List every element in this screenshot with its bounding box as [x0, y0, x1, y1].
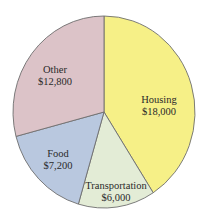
label-transportation: Transportation $6,000 — [85, 180, 146, 204]
pie-chart: Housing $18,000 Transportation $6,000 Fo… — [0, 0, 203, 222]
label-transportation-name: Transportation — [85, 180, 146, 192]
label-housing: Housing $18,000 — [141, 94, 177, 118]
label-other-name: Other — [38, 64, 72, 76]
label-food-value: $7,200 — [44, 160, 73, 172]
label-housing-name: Housing — [141, 94, 177, 106]
label-other-value: $12,800 — [38, 76, 72, 88]
label-transportation-value: $6,000 — [85, 192, 146, 204]
label-other: Other $12,800 — [38, 64, 72, 88]
label-food: Food $7,200 — [44, 148, 73, 172]
label-food-name: Food — [44, 148, 73, 160]
label-housing-value: $18,000 — [141, 106, 177, 118]
